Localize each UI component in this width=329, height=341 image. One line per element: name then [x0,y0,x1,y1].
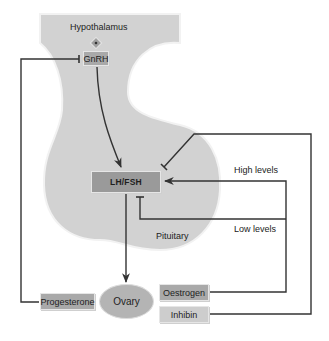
pituitary-label: Pituitary [156,232,189,241]
hypothalamus-label: Hypothalamus [70,23,128,32]
low-levels-label: Low levels [234,225,276,234]
ovary-node: Ovary [99,284,154,319]
gnrh-node: GnRH [83,51,109,66]
lhfsh-node: LH/FSH [91,171,161,193]
hypothalamus-pituitary-region [40,14,220,250]
high-levels-label: High levels [234,166,278,175]
oestrogen-node: Oestrogen [159,284,209,301]
inhibin-node: Inhibin [159,306,209,323]
progesterone-node: Progesterone [40,293,95,310]
